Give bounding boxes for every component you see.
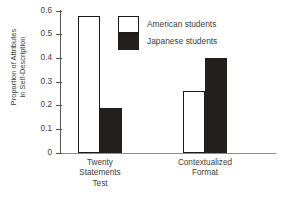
legend-swatch-american-icon [118,16,139,33]
legend-label-american: American students [147,20,216,29]
y-axis-title: Proportion of Attributes in Self-Descrip… [9,0,37,137]
x-category-label-0: TwentyStatementsTest [40,158,160,189]
x-category-label-0-line-0: Twenty [40,158,160,168]
bar-chart-figure: Proportion of Attributes in Self-Descrip… [0,0,284,199]
y-tick-label-0: 0 [12,149,52,157]
x-category-label-0-line-1: Statements [40,168,160,178]
bar-japanese-1 [205,58,227,153]
y-tick-label-5: 0.5 [12,30,52,38]
y-tick-label-4: 0.4 [12,54,52,62]
y-tick-label-3: 0.3 [12,78,52,86]
y-tick-label-2: 0.2 [12,101,52,109]
bar-american-1 [183,91,205,153]
bar-american-0 [78,16,100,153]
y-axis-title-line-1: Proportion of Attributes [9,0,18,137]
x-category-label-1-line-0: Contextualized [145,158,265,168]
legend-label-japanese: Japanese students [147,37,217,46]
y-tick-label-1: 0.1 [12,125,52,133]
x-category-label-1: ContextualizedFormat [145,158,265,179]
x-category-label-0-line-2: Test [40,179,160,189]
x-category-label-1-line-1: Format [145,168,265,178]
y-axis-title-line-2: in Self-Description [18,0,27,137]
bar-japanese-0 [100,108,122,153]
plot-area [61,11,276,153]
y-tick-label-6: 0.6 [12,7,52,15]
legend-swatch-japanese-icon [118,33,139,50]
